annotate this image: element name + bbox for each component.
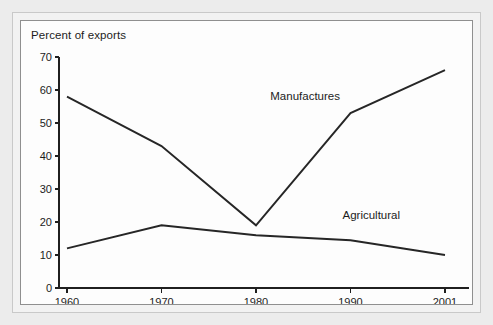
series-label-agricultural: Agricultural [343, 209, 401, 221]
y-tick-label: 70 [40, 51, 52, 63]
series-line-manufactures [67, 70, 445, 225]
x-tick-label: 1970 [149, 296, 173, 305]
y-tick-label: 30 [40, 183, 52, 195]
series-inline-labels: ManufacturesAgricultural [270, 90, 400, 221]
line-chart-plot: 010203040506070 19601970198019902001 Man… [21, 21, 473, 305]
y-tick-label: 10 [40, 249, 52, 261]
y-tick-label: 40 [40, 150, 52, 162]
y-axis-ticks: 010203040506070 [40, 51, 59, 294]
series-lines [67, 70, 445, 255]
y-tick-label: 60 [40, 84, 52, 96]
chart-card: Percent of exports 010203040506070 19601… [20, 20, 473, 305]
y-tick-label: 0 [46, 282, 52, 294]
x-tick-label: 1960 [55, 296, 79, 305]
series-line-agricultural [67, 225, 445, 255]
x-tick-label: 2001 [433, 296, 457, 305]
figure-root: Percent of exports 010203040506070 19601… [0, 0, 493, 325]
x-tick-label: 1980 [244, 296, 268, 305]
x-tick-label: 1990 [338, 296, 362, 305]
y-tick-label: 20 [40, 216, 52, 228]
x-axis-ticks: 19601970198019902001 [55, 288, 457, 305]
series-label-manufactures: Manufactures [270, 90, 340, 102]
y-tick-label: 50 [40, 117, 52, 129]
